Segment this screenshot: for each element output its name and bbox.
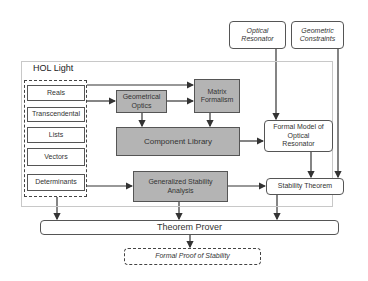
library-determinants: Determinants [27,174,85,191]
geometric-constraints-input: Geometric Constraints [291,21,344,49]
generalized-stability-analysis-box: Generalized Stability Analysis [133,171,228,202]
component-library-box: Component Library [116,127,240,156]
matrix-formalism-box: Matrix Formalism [194,79,240,113]
stability-theorem-box: Stability Theorem [266,178,344,195]
optical-resonator-input: Optical Resonator [229,21,286,49]
library-lists: Lists [27,127,85,143]
library-reals: Reals [27,85,85,101]
library-transcendental: Transcendental [27,107,85,122]
library-vectors: Vectors [27,148,85,166]
geometrical-optics-box: Geometrical Optics [116,90,167,113]
formal-model-box: Formal Model of Optical Resonator [264,120,333,152]
formal-proof-output: Formal Proof of Stability [124,248,261,265]
theorem-prover-box: Theorem Prover [40,220,339,235]
hol-light-label: HOL Light [33,63,73,73]
